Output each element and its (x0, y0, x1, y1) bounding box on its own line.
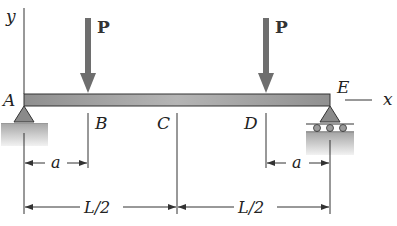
load-label-b: P (97, 17, 110, 37)
dimension-l2-right: L/2 (178, 198, 329, 217)
beam (24, 94, 330, 106)
dimension-a-left: a (25, 153, 87, 172)
point-label-b: B (94, 113, 108, 133)
point-label-c: C (157, 113, 170, 133)
y-axis-label: y (5, 6, 16, 26)
load-label-d: P (275, 17, 288, 37)
point-label-a: A (1, 90, 15, 110)
load-arrow-d: P (258, 17, 288, 93)
point-label-d: D (243, 113, 258, 133)
dimension-label-l2-right: L/2 (237, 198, 264, 217)
point-label-e: E (336, 77, 350, 97)
dimension-a-right: a (267, 153, 329, 172)
x-axis: x (345, 89, 393, 109)
dimension-label-a-left: a (51, 153, 61, 172)
dimension-label-l2-left: L/2 (83, 198, 110, 217)
x-axis-label: x (383, 89, 393, 109)
dimension-l2-left: L/2 (25, 198, 176, 217)
load-arrow-b: P (80, 17, 110, 93)
beam-diagram: y P P A B C D E x (0, 0, 397, 226)
y-axis: y (5, 6, 24, 94)
dimension-label-a-right: a (292, 153, 302, 172)
